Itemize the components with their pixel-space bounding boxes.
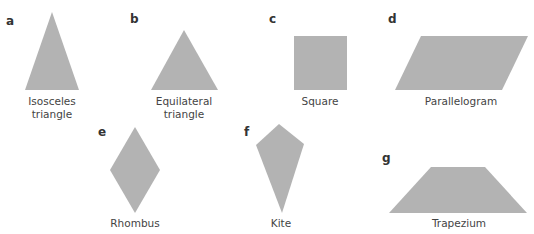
panel-letter-e: e [98,126,106,138]
label-line-1: Square [302,95,339,108]
label-line-2: triangle [156,108,212,121]
label-square: Square [302,95,339,108]
label-isosceles-triangle: Isosceles triangle [28,95,76,121]
label-trapezium: Trapezium [432,217,486,230]
trapezium-shape [389,167,527,213]
label-kite: Kite [271,217,291,230]
rhombus-shape [110,127,160,213]
label-line-1: Isosceles [28,95,76,108]
label-line-1: Equilateral [156,95,212,108]
label-rhombus: Rhombus [110,217,159,230]
label-equilateral-triangle: Equilateral triangle [156,95,212,121]
label-line-1: Trapezium [432,217,486,230]
kite-shape [256,124,304,213]
parallelogram-shape [395,36,528,90]
label-line-1: Rhombus [110,217,159,230]
label-parallelogram: Parallelogram [425,95,497,108]
panel-letter-a: a [6,15,14,27]
panel-letter-b: b [130,13,139,25]
label-line-1: Parallelogram [425,95,497,108]
equilateral-triangle-shape [151,30,218,90]
label-line-1: Kite [271,217,291,230]
label-line-2: triangle [28,108,76,121]
panel-letter-c: c [269,13,276,25]
isosceles-triangle-shape [25,12,79,90]
square-shape [294,36,347,90]
panel-letter-d: d [388,13,397,25]
panel-letter-g: g [382,152,391,164]
shapes-canvas [0,0,534,234]
panel-letter-f: f [244,126,249,138]
